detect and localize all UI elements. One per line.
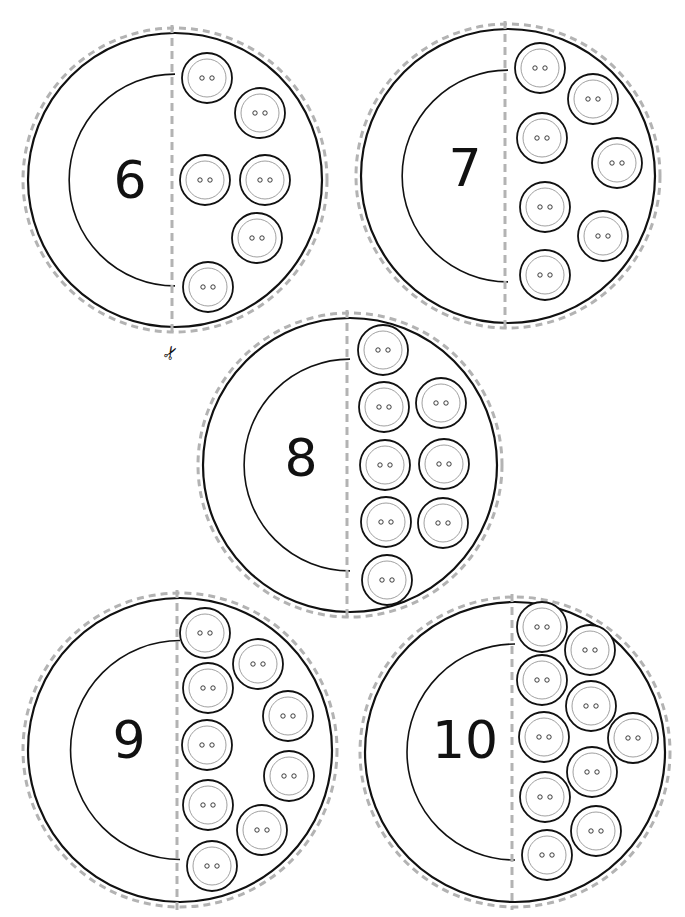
button-icon: [520, 250, 570, 300]
card-number-6: 6: [113, 154, 146, 206]
button-icon: [517, 602, 567, 652]
button-icon: [180, 608, 230, 658]
button-icon: [360, 440, 410, 490]
button-icon: [264, 751, 314, 801]
button-icon: [361, 497, 411, 547]
button-icon: [235, 88, 285, 138]
circles-artwork: [0, 0, 685, 917]
button-icon: [183, 262, 233, 312]
outer-circle: [28, 598, 332, 902]
button-icon: [237, 805, 287, 855]
button-icon: [233, 639, 283, 689]
button-icon: [517, 113, 567, 163]
card-number-10: 10: [432, 714, 498, 766]
button-icon: [187, 841, 237, 891]
button-icon: [520, 772, 570, 822]
card-number-7: 7: [448, 142, 481, 194]
button-icon: [608, 713, 658, 763]
button-icon: [565, 625, 615, 675]
button-icon: [362, 555, 412, 605]
button-icon: [520, 182, 570, 232]
button-icon: [182, 53, 232, 103]
button-icon: [567, 747, 617, 797]
button-icon: [263, 691, 313, 741]
button-icon: [571, 806, 621, 856]
button-icon: [183, 780, 233, 830]
button-icon: [519, 712, 569, 762]
button-icon: [517, 655, 567, 705]
button-icon: [566, 681, 616, 731]
button-icon: [592, 138, 642, 188]
button-icon: [416, 378, 466, 428]
button-icon: [232, 213, 282, 263]
button-icon: [358, 325, 408, 375]
button-icon: [515, 43, 565, 93]
button-icon: [578, 211, 628, 261]
button-icon: [240, 155, 290, 205]
button-icon: [419, 439, 469, 489]
button-icon: [359, 382, 409, 432]
button-icon: [182, 720, 232, 770]
button-icon: [522, 830, 572, 880]
button-icon: [183, 663, 233, 713]
button-icon: [180, 155, 230, 205]
button-icon: [568, 74, 618, 124]
button-icon: [418, 498, 468, 548]
worksheet: 6 7 8 9 10 ✂: [0, 0, 685, 917]
card-number-9: 9: [112, 714, 145, 766]
card-number-8: 8: [284, 432, 317, 484]
